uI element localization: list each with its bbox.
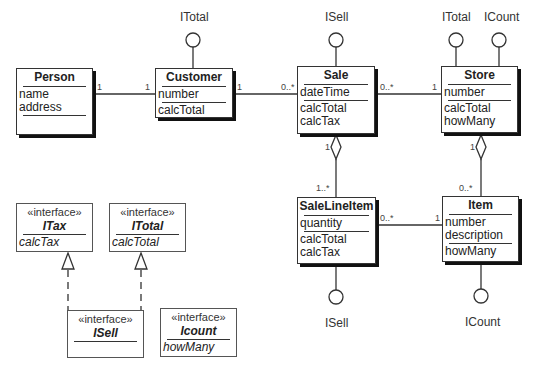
class-person[interactable]: Person name address bbox=[16, 68, 93, 135]
interface-lollipop-icon bbox=[186, 33, 200, 47]
operations-section: calcTotal calcTax bbox=[304, 100, 368, 129]
generalization-arrow-icon bbox=[135, 253, 147, 269]
multiplicity-label: 1 bbox=[432, 82, 437, 92]
attribute: number bbox=[158, 88, 226, 101]
stereotype-label: «interface» bbox=[17, 204, 92, 219]
class-salelineitem[interactable]: SaleLineItem quantity calcTotal calcTax bbox=[297, 197, 376, 264]
interface-name: ITotal bbox=[110, 219, 185, 233]
class-name: SaleLineItem bbox=[298, 198, 375, 214]
operation: howMany bbox=[444, 115, 511, 128]
interface-name: Icount bbox=[161, 324, 236, 338]
attributes-section: number bbox=[448, 84, 511, 100]
class-name: Item bbox=[443, 197, 518, 213]
class-item[interactable]: Item number description howMany bbox=[442, 196, 519, 262]
interface-isell[interactable]: «interface» ISell bbox=[67, 310, 144, 358]
interface-itax[interactable]: «interface» ITax calcTax bbox=[16, 203, 93, 252]
attribute: description bbox=[445, 229, 512, 242]
operation: calcTax bbox=[300, 246, 369, 259]
multiplicity-label: 1..* bbox=[316, 183, 330, 193]
attributes-section: number bbox=[162, 86, 226, 102]
multiplicity-label: 1 bbox=[145, 82, 150, 92]
multiplicity-label: 1 bbox=[237, 82, 242, 92]
stereotype-label: «interface» bbox=[110, 204, 185, 219]
interface-name: ITax bbox=[17, 219, 92, 233]
operations-section: calcTotal calcTax bbox=[304, 231, 369, 260]
interface-lollipop-icon bbox=[329, 290, 343, 304]
lollipop-label-customer-itotal: ITotal bbox=[180, 10, 209, 24]
lollipop-label-item-icount: ICount bbox=[465, 315, 500, 329]
class-name: Person bbox=[17, 69, 92, 85]
aggregation-diamond-icon bbox=[476, 135, 486, 159]
operations-section bbox=[23, 115, 86, 131]
multiplicity-label: 1 bbox=[97, 82, 102, 92]
multiplicity-label: 1 bbox=[470, 142, 475, 152]
attribute: quantity bbox=[300, 217, 369, 230]
operation: calcTax bbox=[19, 236, 86, 249]
operations-section: howMany bbox=[167, 339, 230, 355]
operations-section: calcTotal bbox=[116, 234, 179, 250]
class-name: Store bbox=[442, 67, 517, 83]
interface-lollipop-icon bbox=[492, 33, 506, 47]
operations-section: calcTotal bbox=[162, 102, 226, 118]
multiplicity-label: 0..* bbox=[380, 82, 394, 92]
lollipop-label-sale-isell: ISell bbox=[325, 10, 348, 24]
multiplicity-label: 0..* bbox=[459, 183, 473, 193]
operation: howMany bbox=[163, 341, 230, 354]
multiplicity-label: 0..* bbox=[380, 213, 394, 223]
interface-lollipop-icon bbox=[449, 33, 463, 47]
operation: calcTax bbox=[300, 115, 368, 128]
attribute: number bbox=[444, 86, 511, 99]
stereotype-label: «interface» bbox=[68, 311, 143, 326]
operation: calcTotal bbox=[158, 104, 226, 117]
class-sale[interactable]: Sale dateTime calcTotal calcTax bbox=[297, 66, 375, 134]
class-name: Customer bbox=[156, 69, 232, 85]
attributes-section: number description bbox=[449, 214, 512, 243]
generalization-arrow-icon bbox=[62, 253, 74, 269]
operation: howMany bbox=[445, 245, 512, 258]
lollipop-label-store-itotal: ITotal bbox=[442, 10, 471, 24]
operation: calcTotal bbox=[112, 236, 179, 249]
class-store[interactable]: Store number calcTotal howMany bbox=[441, 66, 518, 133]
attributes-section: quantity bbox=[304, 215, 369, 231]
operations-section: calcTax bbox=[23, 234, 86, 250]
lollipop-label-store-icount: ICount bbox=[484, 10, 519, 24]
attribute: dateTime bbox=[300, 86, 368, 99]
operations-section: howMany bbox=[449, 243, 512, 259]
attributes-section: name address bbox=[23, 86, 86, 115]
interface-itotal[interactable]: «interface» ITotal calcTotal bbox=[109, 203, 186, 252]
class-name: Sale bbox=[298, 67, 374, 83]
attributes-section: dateTime bbox=[304, 84, 368, 100]
interface-lollipop-icon bbox=[474, 289, 488, 303]
operations-section: calcTotal howMany bbox=[448, 100, 511, 129]
multiplicity-label: 1 bbox=[435, 213, 440, 223]
aggregation-diamond-icon bbox=[331, 135, 341, 159]
stereotype-label: «interface» bbox=[161, 309, 236, 324]
multiplicity-label: 1 bbox=[325, 142, 330, 152]
attribute: address bbox=[19, 101, 86, 114]
interface-name: ISell bbox=[68, 326, 143, 340]
class-customer[interactable]: Customer number calcTotal bbox=[155, 68, 233, 118]
operations-section bbox=[74, 341, 137, 357]
interface-lollipop-icon bbox=[329, 33, 343, 47]
lollipop-label-salelineitem-isell: ISell bbox=[325, 316, 348, 330]
multiplicity-label: 0..* bbox=[281, 82, 295, 92]
interface-icount[interactable]: «interface» Icount howMany bbox=[160, 308, 237, 357]
